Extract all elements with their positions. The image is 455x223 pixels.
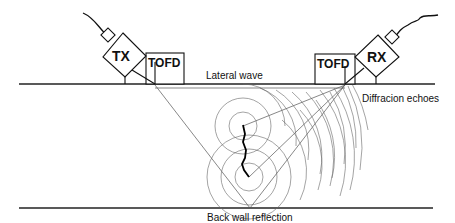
rx-probe: RX TOFD bbox=[315, 15, 438, 84]
tx-label: TX bbox=[112, 48, 131, 64]
tx-connector bbox=[101, 28, 115, 42]
tofd-label-tx: TOFD bbox=[148, 56, 181, 70]
crack-defect bbox=[242, 125, 249, 177]
tofd-label-rx: TOFD bbox=[317, 57, 350, 71]
beam-paths bbox=[155, 85, 345, 208]
diffraction-echoes-caption: Diffracion echoes bbox=[362, 93, 439, 104]
rx-label: RX bbox=[367, 49, 387, 65]
tx-probe: TX TOFD bbox=[83, 13, 184, 84]
rx-cable bbox=[395, 15, 438, 37]
tofd-diagram: TX TOFD RX TOFD Lateral wave Diffracion … bbox=[0, 0, 455, 223]
lateral-wave-caption: Lateral wave bbox=[206, 70, 263, 81]
back-wall-caption: Back wall reflection bbox=[207, 212, 293, 223]
rx-connector bbox=[385, 30, 399, 44]
diffraction-wavefronts-top bbox=[215, 84, 362, 196]
tx-cable bbox=[83, 13, 106, 34]
